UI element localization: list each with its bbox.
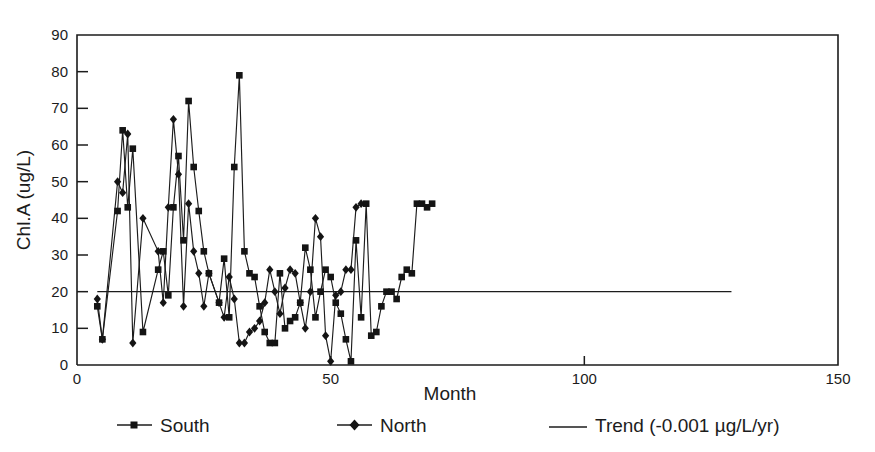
square-marker-icon	[343, 336, 350, 343]
square-marker-icon	[190, 164, 197, 171]
diamond-marker-icon	[185, 199, 192, 208]
y-tick-label: 10	[51, 319, 68, 336]
y-tick-label: 0	[60, 356, 68, 373]
square-marker-icon	[409, 270, 416, 277]
square-marker-icon	[332, 299, 339, 306]
y-tick-label: 30	[51, 246, 68, 263]
legend-item-trend[interactable]: Trend (-0.001 µg/L/yr)	[549, 415, 779, 436]
y-axis-ticks: 0102030405060708090	[51, 26, 88, 373]
y-tick-label: 80	[51, 63, 68, 80]
y-axis-title: Chl.A (ug/L)	[13, 150, 34, 250]
diamond-marker-icon	[347, 265, 354, 274]
legend-label-north: North	[380, 415, 426, 436]
diamond-marker-icon	[94, 295, 101, 304]
square-marker-icon	[94, 303, 101, 310]
series-polylines	[97, 75, 432, 361]
legend: South North Trend (-0.001 µg/L/yr)	[117, 415, 779, 436]
square-marker-icon	[398, 274, 405, 281]
square-marker-icon	[119, 127, 126, 134]
diamond-marker-icon	[266, 265, 273, 274]
diamond-marker-icon	[226, 273, 233, 282]
square-marker-icon	[307, 266, 314, 273]
diamond-marker-icon	[119, 188, 126, 197]
legend-label-south: South	[160, 415, 210, 436]
legend-item-south[interactable]: South	[117, 415, 210, 436]
square-marker-icon	[429, 200, 436, 207]
square-marker-icon	[256, 303, 263, 310]
diamond-marker-icon	[312, 214, 319, 223]
square-marker-icon	[378, 303, 385, 310]
square-marker-icon	[231, 164, 238, 171]
square-marker-icon	[282, 325, 289, 332]
chart-figure: 0102030405060708090 050100150 Month Chl.…	[0, 0, 875, 452]
square-marker-icon	[185, 98, 192, 105]
square-marker-icon	[302, 244, 309, 251]
diamond-marker-icon	[350, 420, 360, 431]
x-tick-label: 0	[73, 370, 81, 387]
y-tick-label: 20	[51, 283, 68, 300]
square-marker-icon	[236, 72, 243, 79]
y-tick-label: 40	[51, 209, 68, 226]
diamond-marker-icon	[271, 287, 278, 296]
square-marker-icon	[114, 208, 121, 215]
square-marker-icon	[195, 208, 202, 215]
diamond-marker-icon	[139, 214, 146, 223]
diamond-marker-icon	[195, 269, 202, 278]
square-marker-icon	[272, 340, 279, 347]
diamond-marker-icon	[302, 324, 309, 333]
diamond-marker-icon	[180, 302, 187, 311]
series-line-south	[97, 75, 432, 361]
square-marker-icon	[338, 310, 345, 317]
square-marker-icon	[175, 153, 182, 160]
square-marker-icon	[317, 288, 324, 295]
square-marker-icon	[327, 274, 334, 281]
square-marker-icon	[180, 237, 187, 244]
x-axis-title: Month	[424, 383, 477, 404]
square-marker-icon	[140, 329, 147, 336]
diamond-marker-icon	[322, 331, 329, 340]
diamond-marker-icon	[231, 295, 238, 304]
square-marker-icon	[353, 237, 360, 244]
y-tick-label: 90	[51, 26, 68, 43]
diamond-marker-icon	[190, 247, 197, 256]
square-marker-icon	[393, 296, 400, 303]
diamond-marker-icon	[160, 298, 167, 307]
y-tick-label: 70	[51, 99, 68, 116]
y-tick-label: 60	[51, 136, 68, 153]
square-marker-icon	[388, 288, 395, 295]
square-marker-icon	[373, 329, 380, 336]
square-marker-icon	[130, 145, 137, 152]
square-marker-icon	[241, 248, 248, 255]
plot-frame	[77, 35, 838, 365]
x-tick-label: 100	[572, 370, 597, 387]
chart-canvas: 0102030405060708090 050100150 Month Chl.…	[0, 0, 875, 452]
series-line-north	[97, 119, 361, 361]
square-marker-icon	[277, 270, 284, 277]
diamond-marker-icon	[200, 302, 207, 311]
square-marker-icon	[201, 248, 208, 255]
square-marker-icon	[155, 266, 162, 273]
square-marker-icon	[251, 274, 258, 281]
diamond-marker-icon	[129, 339, 136, 348]
square-marker-icon	[358, 314, 365, 321]
square-marker-icon	[131, 422, 138, 429]
square-marker-icon	[261, 329, 268, 336]
legend-label-trend: Trend (-0.001 µg/L/yr)	[595, 415, 779, 436]
square-marker-icon	[124, 204, 131, 211]
square-marker-icon	[312, 314, 319, 321]
diamond-marker-icon	[241, 339, 248, 348]
square-marker-icon	[322, 266, 329, 273]
diamond-marker-icon	[170, 115, 177, 124]
square-marker-icon	[165, 292, 172, 299]
legend-item-north[interactable]: North	[337, 415, 426, 436]
x-tick-label: 50	[322, 370, 339, 387]
y-tick-label: 50	[51, 173, 68, 190]
diamond-marker-icon	[317, 232, 324, 241]
square-marker-icon	[348, 358, 355, 365]
x-tick-label: 150	[825, 370, 850, 387]
square-marker-icon	[221, 255, 228, 262]
square-marker-icon	[292, 314, 299, 321]
